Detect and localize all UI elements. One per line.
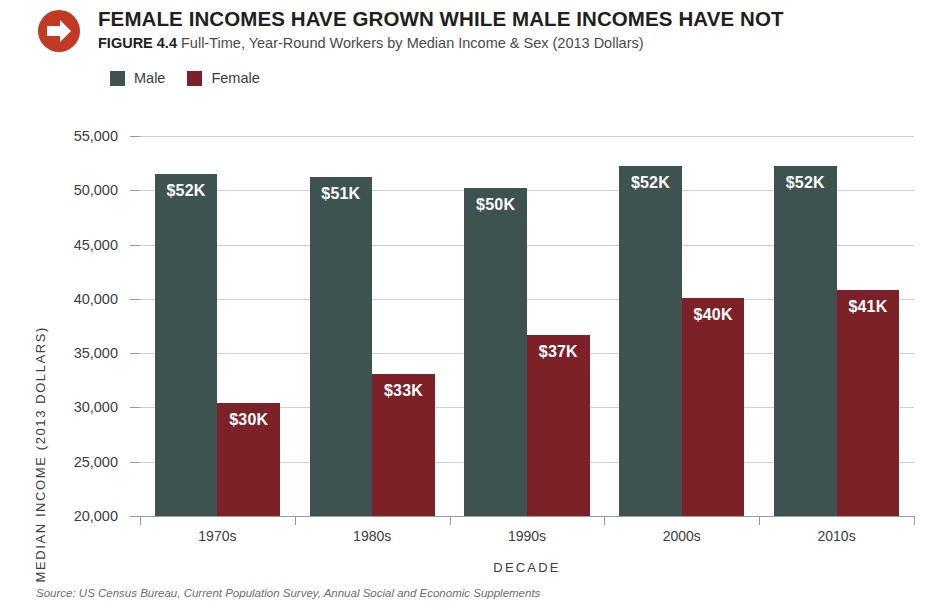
bar-male-2000s[interactable]: $52K <box>619 166 682 516</box>
x-axis-tick-label-1970s: 1970s <box>140 528 295 544</box>
y-axis-tick <box>130 407 140 408</box>
bar-chart: MEDIAN INCOME (2013 DOLLARS) 55,00050,00… <box>0 0 925 610</box>
y-axis-tick-label: 45,000 <box>32 237 118 253</box>
x-axis-tick <box>759 516 760 525</box>
y-axis-tick <box>130 245 140 246</box>
bar-male-1980s[interactable]: $51K <box>310 177 373 516</box>
bar-value-label: $52K <box>155 182 218 200</box>
bar-value-label: $52K <box>774 174 837 192</box>
bar-value-label: $40K <box>682 306 745 324</box>
bar-group: $52K$40K2000s <box>604 136 759 516</box>
y-axis-tick <box>130 299 140 300</box>
bar-value-label: $51K <box>310 185 373 203</box>
bar-female-1990s[interactable]: $37K <box>527 335 590 516</box>
y-axis-tick <box>130 353 140 354</box>
x-axis-tick-label-1990s: 1990s <box>450 528 605 544</box>
bar-group: $50K$37K1990s <box>450 136 605 516</box>
x-axis-tick <box>295 516 296 525</box>
y-axis-tick <box>130 516 140 517</box>
x-axis-tick <box>604 516 605 525</box>
bar-value-label: $41K <box>837 298 900 316</box>
y-axis-tick <box>130 136 140 137</box>
bar-female-2010s[interactable]: $41K <box>837 290 900 516</box>
x-axis-title: DECADE <box>140 560 914 575</box>
bar-male-2010s[interactable]: $52K <box>774 166 837 516</box>
bar-female-1980s[interactable]: $33K <box>372 374 435 516</box>
bar-group: $51K$33K1980s <box>295 136 450 516</box>
y-axis-tick-label: 30,000 <box>32 399 118 415</box>
x-axis-baseline <box>140 516 914 517</box>
x-axis-tick <box>450 516 451 525</box>
plot-area: 55,00050,00045,00040,00035,00030,00025,0… <box>140 136 914 516</box>
y-axis-tick-label: 55,000 <box>32 128 118 144</box>
y-axis-tick <box>130 190 140 191</box>
y-axis-tick <box>130 462 140 463</box>
bar-group: $52K$30K1970s <box>140 136 295 516</box>
bar-value-label: $33K <box>372 382 435 400</box>
x-axis-tick-label-2010s: 2010s <box>759 528 914 544</box>
bar-male-1970s[interactable]: $52K <box>155 174 218 516</box>
y-axis-tick-label: 50,000 <box>32 182 118 198</box>
figure-page: FEMALE INCOMES HAVE GROWN WHILE MALE INC… <box>0 0 925 610</box>
bar-value-label: $52K <box>619 174 682 192</box>
source-note: Source: US Census Bureau, Current Popula… <box>36 587 540 599</box>
bar-female-1970s[interactable]: $30K <box>217 403 280 516</box>
x-axis-tick-label-2000s: 2000s <box>604 528 759 544</box>
x-axis-tick <box>140 516 141 525</box>
y-axis-tick-label: 25,000 <box>32 454 118 470</box>
bar-female-2000s[interactable]: $40K <box>682 298 745 516</box>
bar-value-label: $37K <box>527 343 590 361</box>
bar-male-1990s[interactable]: $50K <box>464 188 527 516</box>
bar-group: $52K$41K2010s <box>759 136 914 516</box>
bar-value-label: $50K <box>464 196 527 214</box>
x-axis-tick-label-1980s: 1980s <box>295 528 450 544</box>
bar-value-label: $30K <box>217 411 280 429</box>
x-axis-tick <box>914 516 915 525</box>
y-axis-tick-label: 35,000 <box>32 345 118 361</box>
y-axis-tick-label: 20,000 <box>32 508 118 524</box>
y-axis-tick-label: 40,000 <box>32 291 118 307</box>
